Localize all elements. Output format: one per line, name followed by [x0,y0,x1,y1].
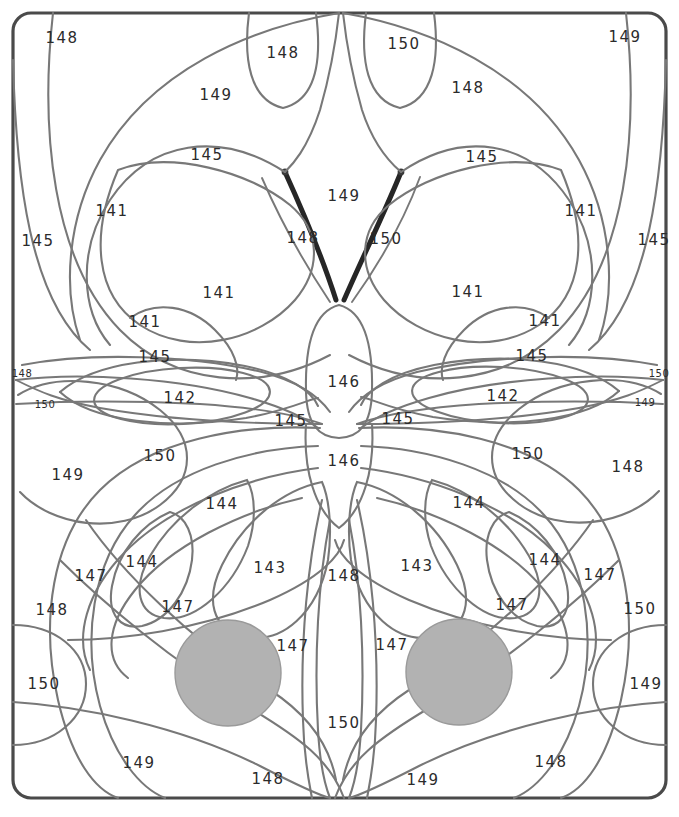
region-number-label: 147 [375,638,408,653]
region-number-label: 147 [276,639,309,654]
region-number-label: 141 [451,285,484,300]
region-number-label: 144 [125,555,158,570]
region-number-label: 145 [381,412,414,427]
region-number-label: 145 [274,414,307,429]
region-number-label: 150 [369,232,402,247]
region-number-label: 149 [327,189,360,204]
region-number-label: 145 [21,234,54,249]
diagram-frame [13,13,666,798]
region-number-label: 146 [327,454,360,469]
region-number-label: 148 [286,231,319,246]
region-number-label: 148 [12,369,33,379]
region-number-label: 150 [511,447,544,462]
region-number-label: 145 [190,148,223,163]
region-number-label: 150 [27,677,60,692]
region-number-label: 145 [637,233,670,248]
region-number-label: 144 [528,553,561,568]
region-number-label: 141 [95,204,128,219]
butterfly-line-art: .ln{fill:none;stroke:#787878;stroke-widt… [0,0,679,817]
region-number-label: 148 [35,603,68,618]
region-number-label: 149 [608,30,641,45]
region-number-label: 150 [327,716,360,731]
region-number-label: 141 [528,314,561,329]
region-number-label: 148 [266,46,299,61]
left-spot [175,620,281,726]
region-number-label: 145 [465,150,498,165]
region-number-label: 148 [534,755,567,770]
region-number-label: 141 [128,315,161,330]
region-number-label: 144 [205,497,238,512]
region-number-label: 144 [452,496,485,511]
region-number-label: 148 [327,569,360,584]
region-number-label: 149 [199,88,232,103]
region-number-label: 145 [138,350,171,365]
region-number-label: 149 [122,756,155,771]
region-number-label: 150 [649,369,670,379]
region-number-label: 150 [387,37,420,52]
diagram-canvas: .ln{fill:none;stroke:#787878;stroke-widt… [0,0,679,817]
region-number-label: 141 [202,286,235,301]
right-spot [406,619,512,725]
region-number-label: 149 [406,773,439,788]
region-number-label: 150 [35,400,56,410]
region-number-label: 146 [327,375,360,390]
region-number-label: 143 [400,559,433,574]
region-number-label: 147 [161,600,194,615]
region-number-label: 142 [486,389,519,404]
region-number-label: 142 [163,391,196,406]
region-number-label: 148 [45,31,78,46]
region-number-label: 147 [583,568,616,583]
region-number-label: 148 [611,460,644,475]
region-number-label: 148 [451,81,484,96]
region-number-label: 147 [74,569,107,584]
region-number-label: 150 [143,449,176,464]
region-number-label: 143 [253,561,286,576]
region-number-label: 148 [251,772,284,787]
region-number-label: 141 [564,204,597,219]
region-number-label: 145 [515,349,548,364]
region-number-label: 147 [495,598,528,613]
region-number-label: 149 [635,398,656,408]
region-number-label: 149 [629,677,662,692]
region-number-label: 149 [51,468,84,483]
region-number-label: 150 [623,602,656,617]
